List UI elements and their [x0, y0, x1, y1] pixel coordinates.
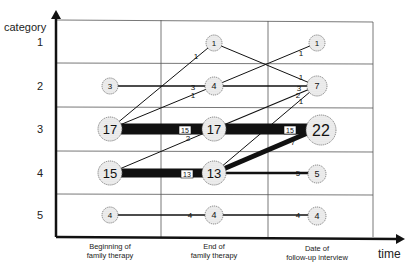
- svg-text:17: 17: [103, 122, 117, 137]
- flow-label: 1: [194, 52, 199, 61]
- time-point-label-line1: Date of: [272, 244, 362, 253]
- svg-text:4: 4: [211, 210, 216, 220]
- flow-label: 1: [299, 97, 304, 106]
- time-point-label-line2: follow-up interview: [272, 253, 362, 262]
- flows-beginning-to-end: [110, 43, 214, 215]
- svg-text:7: 7: [314, 81, 319, 91]
- time-point-label-line1: Beginning of: [65, 242, 155, 251]
- flow-label: 13: [183, 171, 191, 178]
- flow-label: 1: [299, 73, 304, 82]
- time-point-end: End of family therapy: [169, 242, 259, 260]
- flow-label: 4: [296, 211, 301, 220]
- svg-text:4: 4: [211, 81, 216, 91]
- flow-label: 1: [191, 91, 196, 100]
- svg-text:15: 15: [103, 166, 117, 181]
- diagram-canvas: 1 3 1 15 2 13 4 1 1 3 2 1 15 7 5 4: [0, 0, 414, 269]
- flow-label: 5: [296, 169, 301, 178]
- time-point-label-line1: End of: [169, 242, 259, 251]
- time-point-beginning: Beginning of family therapy: [65, 242, 155, 260]
- svg-text:4: 4: [108, 211, 113, 220]
- svg-text:4: 4: [314, 211, 319, 221]
- category-transition-diagram: category 1 2 3 4 5: [0, 0, 414, 269]
- x-axis-label: time: [378, 247, 401, 261]
- flow-label: 1: [299, 49, 304, 58]
- svg-text:3: 3: [108, 82, 113, 91]
- flow-label: 15: [181, 127, 189, 134]
- time-point-label-line2: family therapy: [65, 251, 155, 260]
- flow-label: 7: [291, 138, 296, 147]
- svg-text:17: 17: [207, 122, 221, 137]
- time-point-label-line2: family therapy: [169, 251, 259, 260]
- flow-label: 15: [286, 127, 294, 134]
- svg-text:13: 13: [207, 166, 221, 181]
- svg-text:1: 1: [212, 39, 217, 48]
- time-point-followup: Date of follow-up interview: [272, 244, 362, 262]
- svg-text:5: 5: [314, 169, 319, 179]
- svg-text:22: 22: [312, 122, 330, 139]
- flows-end-to-followup: [214, 43, 317, 215]
- svg-text:1: 1: [315, 39, 320, 48]
- flow-label: 2: [186, 134, 191, 143]
- flow-label: 4: [188, 211, 193, 220]
